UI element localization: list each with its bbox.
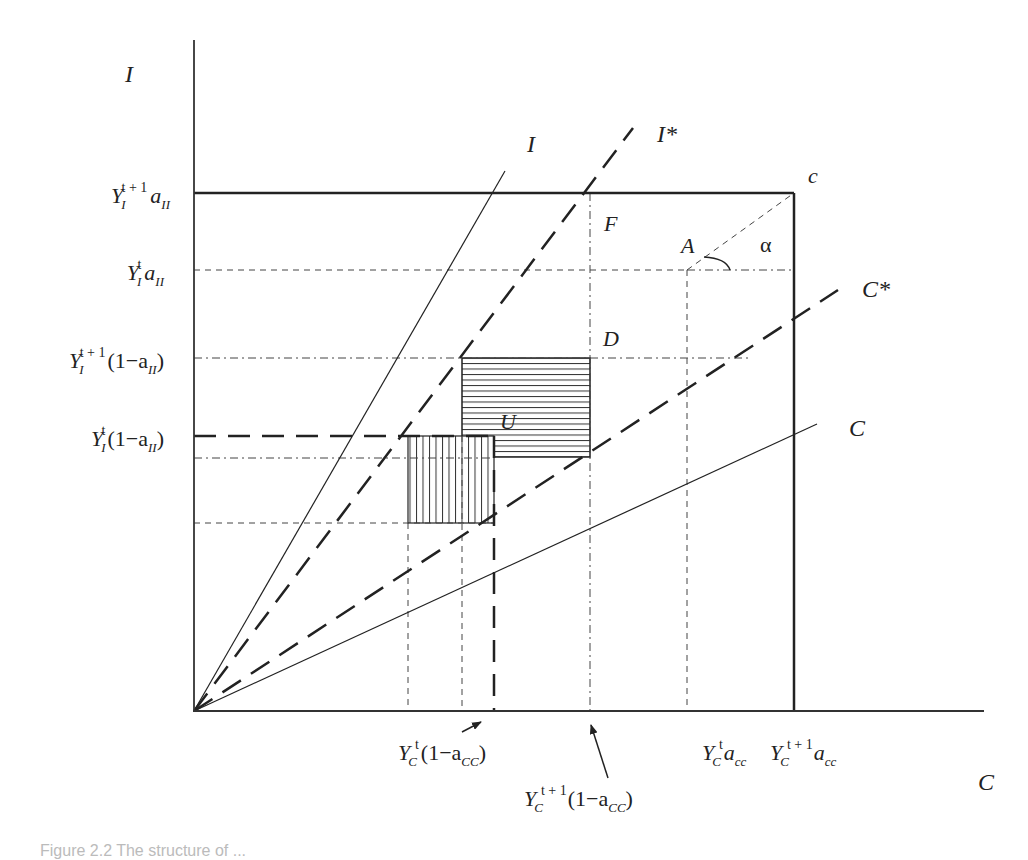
ray-label-C-star: C* [862,276,890,302]
ray-label-I: I [526,131,536,157]
x-tick-label-yc-t1-one-minus-acc: YCt + 1(1−aCC) [524,783,633,815]
ray-C [194,424,817,711]
hatched-region-vertical [408,436,494,523]
arrow-icon-yc-t1 [591,725,608,778]
point-label-c: c [808,163,818,188]
ray-label-I-star: I* [656,121,677,147]
point-label-A: A [679,233,695,258]
y-tick-label-yi-t-one-minus-aii: YIt(1−aII) [91,423,164,455]
y-tick-label-yi-t1-one-minus-aii: YIt + 1(1−aII) [69,345,164,377]
angle-arc-icon [704,257,730,270]
arrow-icon-yc-t [462,722,481,732]
y-tick-label-yi-t1-aii: YIt + 1aII [111,180,171,212]
x-tick-label-yc-t1-acc: YCt + 1acc [770,737,836,769]
point-label-F: F [603,211,618,236]
angle-label-alpha: α [760,232,772,257]
ray-label-C: C [849,415,866,441]
x-tick-label-yc-t-acc: YCtacc [702,737,747,769]
figure-caption: Figure 2.2 The structure of ... [40,842,246,860]
x-tick-label-yc-t-one-minus-acc: YCt(1−aCC) [398,737,486,769]
y-tick-label-yi-t-aii: YItaII [127,257,165,289]
ray-C-star [194,290,838,711]
region-label-U: U [500,409,518,434]
point-label-D: D [602,326,619,351]
x-axis-label: C [978,769,995,795]
y-axis-label: I [124,61,134,87]
